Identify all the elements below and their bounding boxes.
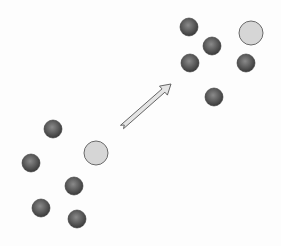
clusters-layer [22,18,263,228]
dark-particle [203,37,221,55]
upper-right-cluster [180,18,263,106]
light-particle [84,141,108,165]
dark-particle [205,88,223,106]
dark-particle [32,199,50,217]
dark-particle [65,177,83,195]
diagram-canvas [0,0,281,246]
lower-left-cluster [22,120,108,228]
light-particle [239,21,263,45]
dark-particle [180,18,198,36]
dark-particle [44,120,62,138]
dark-particle [22,154,40,172]
particle-transfer-diagram [0,0,281,246]
dark-particle [237,54,255,72]
direction-arrow [121,84,172,129]
dark-particle [181,54,199,72]
dark-particle [68,210,86,228]
arrow-icon [121,84,172,129]
